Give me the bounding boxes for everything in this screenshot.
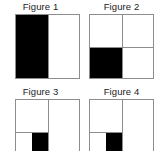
figure-2-divider-horizontal: [90, 47, 153, 48]
figure-4-caption: Figure 4: [81, 86, 162, 97]
figure-1-region-left-half: [16, 15, 48, 78]
figure-2-region-bottom-right: [122, 47, 154, 79]
figure-4-divider-vertical: [122, 100, 123, 151]
figure-3-region-top-left: [16, 100, 48, 132]
figure-3-region-bottom-right: [48, 132, 80, 152]
figure-1-square: [15, 14, 80, 79]
figure-3-caption: Figure 3: [0, 86, 81, 97]
figure-2-caption: Figure 2: [81, 1, 162, 12]
figure-4-region-top-right: [122, 100, 154, 132]
figure-4-region-bottom-left-right: [106, 132, 122, 152]
figure-1-region-right-half: [48, 15, 80, 78]
figure-2-region-top-left: [90, 15, 122, 47]
figure-3-region-bottom-left-left: [16, 132, 32, 152]
figure-3-square: [15, 99, 80, 151]
figure-3-cell: Figure 3: [0, 86, 81, 151]
figure-4-divider-horizontal: [90, 132, 122, 133]
figure-2-square: [89, 14, 154, 79]
figure-4-region-top-left: [90, 100, 122, 132]
figure-3-divider-horizontal: [16, 132, 48, 133]
figures-panel: Figure 1 Figure 2 Figure 3: [0, 0, 162, 151]
figure-1-divider-vertical: [48, 15, 49, 78]
figure-1-caption: Figure 1: [0, 1, 81, 12]
figure-2-region-bottom-left: [90, 47, 122, 79]
figure-4-square: [89, 99, 154, 151]
figure-2-cell: Figure 2: [81, 1, 162, 81]
figure-3-region-top-right: [48, 100, 80, 132]
figure-3-divider-vertical: [48, 100, 49, 151]
figure-4-region-bottom-right: [122, 132, 154, 152]
figure-3-region-bottom-left-right: [32, 132, 48, 152]
figure-1-cell: Figure 1: [0, 1, 81, 81]
figure-4-region-bottom-left-left: [90, 132, 106, 152]
figure-2-region-top-right: [122, 15, 154, 47]
figure-4-cell: Figure 4: [81, 86, 162, 151]
